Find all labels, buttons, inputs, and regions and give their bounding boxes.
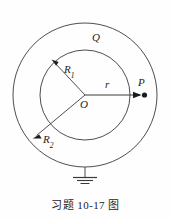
figure-caption: 习题 10-17 图: [0, 196, 171, 212]
figure-page: Q R1 R2 r O P 习题 10-17 图: [0, 0, 171, 220]
distance-label-r: r: [105, 79, 109, 90]
concentric-shell-diagram: [0, 0, 171, 220]
inner-radius-label-base: R: [64, 63, 71, 75]
radius-arrow-r1-icon: [52, 60, 59, 66]
inner-radius-label-subscript: 1: [71, 71, 75, 80]
center-label-o: O: [80, 99, 88, 110]
inner-radius-label-r1: R1: [64, 64, 74, 78]
outer-radius-label-base: R: [43, 133, 50, 145]
radius-line-r2: [37, 95, 86, 136]
outer-radius-label-r2: R2: [43, 134, 53, 148]
field-point-label-p: P: [138, 77, 145, 88]
charge-label-q: Q: [92, 32, 100, 43]
ground-symbol-icon: [73, 178, 97, 184]
outer-radius-label-subscript: 2: [50, 141, 54, 150]
distance-arrow-r-icon: [133, 92, 142, 98]
point-p-dot: [142, 92, 147, 97]
